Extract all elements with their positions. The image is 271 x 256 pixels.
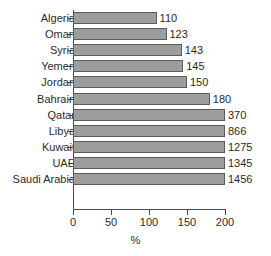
bar [73,60,183,72]
bar [73,44,182,56]
bar-value-label: 145 [186,60,204,72]
bar-value-label: 1345 [228,157,252,169]
bar [73,93,210,105]
category-label: Jordan [41,76,75,88]
category-label: Syria [50,44,75,56]
bar-value-label: 123 [170,28,188,40]
x-axis-title: % [0,234,271,246]
bar [73,28,167,40]
x-axis-tick [149,210,150,215]
category-label: Saudi Arabia [13,173,75,185]
category-label: Bahrain [37,93,75,105]
bar [73,109,225,121]
bar-value-label: 180 [213,93,231,105]
bar-value-label: 866 [228,125,246,137]
bar [73,76,187,88]
bar-value-label: 1275 [228,141,252,153]
x-axis-tick-label: 50 [91,216,131,228]
category-label: Libya [49,125,75,137]
x-axis-tick [187,210,188,215]
bar-value-label: 1456 [228,173,252,185]
bar [73,12,157,24]
x-axis-tick [225,210,226,215]
category-label: Yemen [41,60,75,72]
category-label: Kuwait [42,141,75,153]
bar-value-label: 150 [190,76,208,88]
x-axis-tick-label: 100 [129,216,169,228]
x-axis-tick-label: 0 [53,216,93,228]
bar [73,141,225,153]
x-axis-tick-label: 150 [167,216,207,228]
bar-value-label: 370 [228,109,246,121]
category-label: Qatar [47,109,75,121]
bar-value-label: 110 [160,12,178,24]
bar [73,125,225,137]
bar-value-label: 143 [185,44,203,56]
bar [73,157,225,169]
bar-chart: AlgeriaOmanSyriaYemenJordanBahrainQatarL… [0,0,271,256]
x-axis-tick [111,210,112,215]
x-axis-tick-label: 200 [205,216,245,228]
category-label: Oman [45,28,75,40]
bar [73,173,225,185]
x-axis-tick [73,210,74,215]
category-label: UAE [52,157,75,169]
category-label: Algeria [41,12,75,24]
